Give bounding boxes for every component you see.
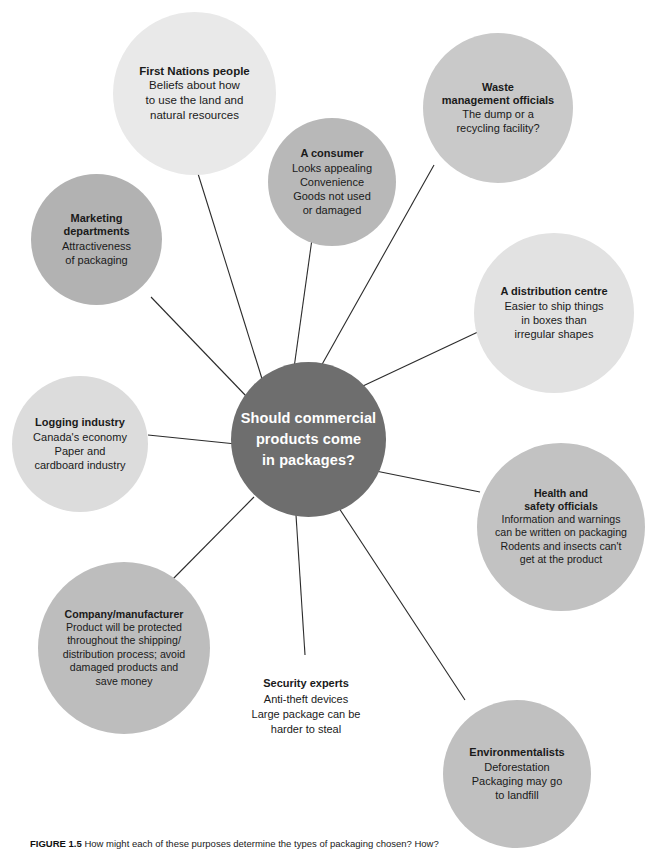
node-heading-marketing-departments: Marketing — [71, 212, 123, 225]
node-company-manufacturer: Company/manufacturer Product will be pro… — [38, 562, 210, 734]
node-body-line: distribution process; avoid — [63, 648, 185, 662]
node-body-line: Goods not used — [293, 189, 371, 203]
spoke-line-a-consumer — [294, 239, 312, 368]
node-body-line: save money — [95, 675, 152, 689]
node-body-line: Anti-theft devices — [213, 692, 399, 707]
node-body-line: can be written on packaging — [495, 526, 627, 540]
node-body-line: Packaging may go — [472, 774, 563, 788]
node-heading-a-distribution-centre: A distribution centre — [500, 285, 607, 298]
node-body-line: Attractiveness — [62, 239, 131, 253]
concept-map-diagram: Should commercial products come in packa… — [0, 0, 645, 832]
node-heading-a-consumer: A consumer — [300, 147, 363, 160]
node-heading-company-manufacturer: Company/manufacturer — [65, 608, 184, 621]
node-logging-industry: Logging industry Canada's economy Paper … — [12, 376, 148, 512]
node-heading-first-nations-people: First Nations people — [139, 64, 250, 78]
node-heading-waste-management-officials: Waste — [482, 81, 514, 94]
node-heading-health-and-safety-officials: Health and — [534, 487, 588, 500]
node-body-line: irregular shapes — [515, 327, 594, 341]
node-body-line: cardboard industry — [34, 458, 125, 472]
node-heading-line-2: management officials — [442, 94, 554, 107]
spoke-line-logging-industry — [148, 435, 236, 444]
figure-caption-text: How might each of these purposes determi… — [84, 838, 438, 849]
spoke-line-company-manufacturer — [168, 497, 254, 584]
node-heading-line-2: safety officials — [524, 500, 598, 513]
node-waste-management-officials: Waste management officials The dump or a… — [423, 33, 573, 183]
spoke-line-security-experts — [296, 515, 305, 655]
node-body-line: Large package can be — [213, 707, 399, 722]
node-body-line: natural resources — [150, 108, 239, 123]
node-body-line: Rodents and insects can't — [501, 540, 622, 554]
node-first-nations-people: First Nations people Beliefs about how t… — [113, 12, 276, 175]
center-node-line-3: in packages? — [262, 450, 355, 471]
node-body-line: harder to steal — [213, 722, 399, 737]
node-body-line: Convenience — [300, 175, 364, 189]
node-body-line: recycling facility? — [456, 121, 539, 135]
spoke-line-a-distribution-centre — [348, 331, 480, 393]
node-heading-logging-industry: Logging industry — [35, 416, 125, 429]
node-body-line: The dump or a — [462, 107, 534, 121]
node-body-line: in boxes than — [521, 313, 586, 327]
figure-number: FIGURE 1.5 — [30, 838, 82, 849]
node-body-line: Looks appealing — [292, 161, 372, 175]
node-heading-security-experts: Security experts — [213, 676, 399, 692]
node-heading-line-2: departments — [63, 225, 129, 238]
spoke-line-first-nations-people — [190, 148, 263, 382]
node-body-line: Deforestation — [484, 760, 549, 774]
node-environmentalists: Environmentalists Deforestation Packagin… — [443, 700, 591, 848]
node-body-line: throughout the shipping/ — [67, 634, 181, 648]
spoke-line-environmentalists — [337, 505, 465, 700]
center-node-line-1: Should commercial — [241, 408, 376, 429]
node-body-line: Easier to ship things — [504, 299, 603, 313]
node-a-distribution-centre: A distribution centre Easier to ship thi… — [474, 233, 634, 393]
node-health-and-safety-officials: Health and safety officials Information … — [477, 443, 645, 611]
node-body-line: get at the product — [520, 553, 602, 567]
node-security-experts: Security experts Anti-theft devices Larg… — [213, 676, 399, 737]
node-body-line: or damaged — [303, 203, 362, 217]
node-a-consumer: A consumer Looks appealing Convenience G… — [268, 118, 396, 246]
node-body-line: Beliefs about how — [149, 78, 240, 93]
node-body-line: of packaging — [65, 253, 127, 267]
node-marketing-departments: Marketing departments Attractiveness of … — [31, 174, 162, 305]
node-body-line: to landfill — [495, 788, 538, 802]
spoke-line-marketing-departments — [151, 297, 247, 397]
center-node-question: Should commercial products come in packa… — [231, 362, 386, 517]
node-body-line: Product will be protected — [66, 621, 182, 635]
node-body-line: Paper and — [55, 444, 106, 458]
node-body-line: Information and warnings — [502, 513, 621, 527]
node-body-line: to use the land and — [146, 93, 244, 108]
node-body-line: Canada's economy — [33, 430, 127, 444]
node-heading-environmentalists: Environmentalists — [469, 746, 564, 759]
node-body-line: damaged products and — [70, 661, 178, 675]
center-node-line-2: products come — [256, 429, 361, 450]
